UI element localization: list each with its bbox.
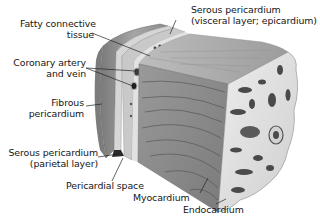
label-serous-pericardium-parietal: Serous pericardium (parietal layer) xyxy=(2,147,98,169)
coronary-vein xyxy=(131,82,137,89)
label-serous-pericardium-visceral: Serous pericardium (visceral layer; epic… xyxy=(191,4,317,26)
myocardium-front-face xyxy=(138,64,228,212)
label-pericardial-space: Pericardial space xyxy=(66,180,144,191)
label-coronary-artery-and-vein: Coronary artery and vein xyxy=(4,57,86,79)
label-endocardium: Endocardium xyxy=(183,204,244,215)
label-myocardium: Myocardium xyxy=(133,192,190,203)
label-fibrous-pericardium: Fibrous pericardium xyxy=(20,97,84,119)
label-fatty-connective-tissue: Fatty connective tissue xyxy=(20,18,94,40)
